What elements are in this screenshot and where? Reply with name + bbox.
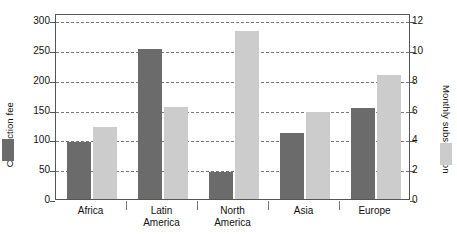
tick-label: 200 [33,76,50,86]
category-label-line: Asia [268,205,339,217]
tick-label: 2 [412,165,418,175]
tick-label: 150 [33,106,50,116]
legend-swatch-connection-fee [2,139,14,161]
left-tick-mark [50,82,55,83]
tick-label: 250 [33,46,50,56]
bar-connection-fee [351,108,375,199]
bar-monthly-subscription [306,112,330,199]
right-tick-mark [410,82,415,83]
category-label: LatinAmerica [126,205,197,228]
category-label: NorthAmerica [197,205,268,228]
left-axis-tick-labels: 050100150200250300 [18,0,50,234]
category-label-line: America [197,217,268,229]
category-label: Europe [339,205,410,217]
tick-label: 100 [33,135,50,145]
right-tick-mark [410,141,415,142]
tick-label: 10 [412,46,423,56]
category-label-line: America [126,217,197,229]
left-tick-mark [50,112,55,113]
bar-monthly-subscription [235,31,259,199]
right-tick-mark [410,112,415,113]
tick-label: 50 [39,165,50,175]
category-label-line: Latin [126,205,197,217]
left-tick-mark [50,22,55,23]
tick-label: 4 [412,135,418,145]
bar-monthly-subscription [377,75,401,199]
right-tick-mark [410,52,415,53]
category-label: Asia [268,205,339,217]
grouped-bar-chart: Connection fee Monthly subscription 0501… [0,0,457,234]
left-tick-mark [50,201,55,202]
plot-area [55,14,410,200]
bar-connection-fee [209,172,233,199]
category-label-line: Africa [55,205,126,217]
right-tick-mark [410,22,415,23]
tick-label: 0 [412,195,418,205]
bar-connection-fee [138,49,162,199]
category-label-line: North [197,205,268,217]
bar-connection-fee [280,133,304,199]
left-axis-title: Connection fee [2,92,16,178]
tick-label: 12 [412,16,423,26]
tick-label: 0 [44,195,50,205]
tick-label: 8 [412,76,418,86]
bar-connection-fee [67,142,91,199]
right-tick-mark [410,171,415,172]
right-axis-tick-labels: 024681012 [412,0,444,234]
tick-label: 300 [33,16,50,26]
bar-monthly-subscription [93,127,117,199]
left-tick-mark [50,171,55,172]
category-label-line: Europe [339,205,410,217]
right-tick-mark [410,201,415,202]
bars-layer [56,15,409,199]
left-tick-mark [50,141,55,142]
bar-monthly-subscription [164,107,188,199]
left-tick-mark [50,52,55,53]
tick-label: 6 [412,106,418,116]
category-label: Africa [55,205,126,217]
